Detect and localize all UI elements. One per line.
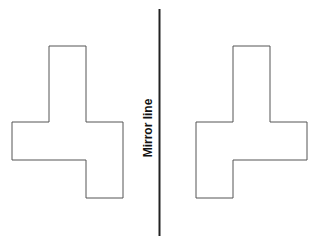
left-shape <box>12 46 123 198</box>
right-shape-reflection <box>196 46 307 198</box>
mirror-diagram <box>0 0 319 248</box>
mirror-line-label: Mirror line <box>141 99 155 158</box>
